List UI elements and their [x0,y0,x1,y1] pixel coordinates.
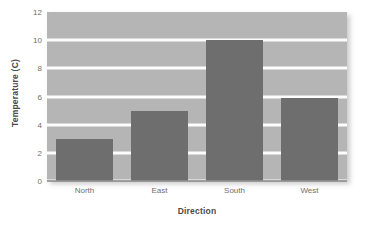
bar-chart-figure: Temperature (C) 024681012 NorthEastSouth… [0,0,371,230]
x-tick-label: South [224,186,245,195]
y-tick-label: 0 [38,177,42,186]
gridline [47,39,347,42]
bar [56,139,113,181]
x-tick-label: West [300,186,318,195]
plot-area [47,12,347,181]
x-axis-baseline [47,180,347,182]
y-axis-tick-labels: 024681012 [26,12,45,181]
y-tick-label: 4 [38,120,42,129]
y-tick-label: 10 [33,36,42,45]
y-tick-label: 8 [38,64,42,73]
bar [131,111,188,181]
x-tick-label: East [151,186,167,195]
y-axis-title-text: Temperature (C) [10,58,20,126]
y-tick-label: 2 [38,148,42,157]
x-tick-label: North [75,186,95,195]
y-tick-label: 6 [38,92,42,101]
x-axis-tick-labels: NorthEastSouthWest [47,186,347,200]
y-tick-label: 12 [33,8,42,17]
x-axis-title: Direction [47,206,347,216]
bar [206,40,263,181]
gridline [47,67,347,70]
bar [281,98,338,181]
